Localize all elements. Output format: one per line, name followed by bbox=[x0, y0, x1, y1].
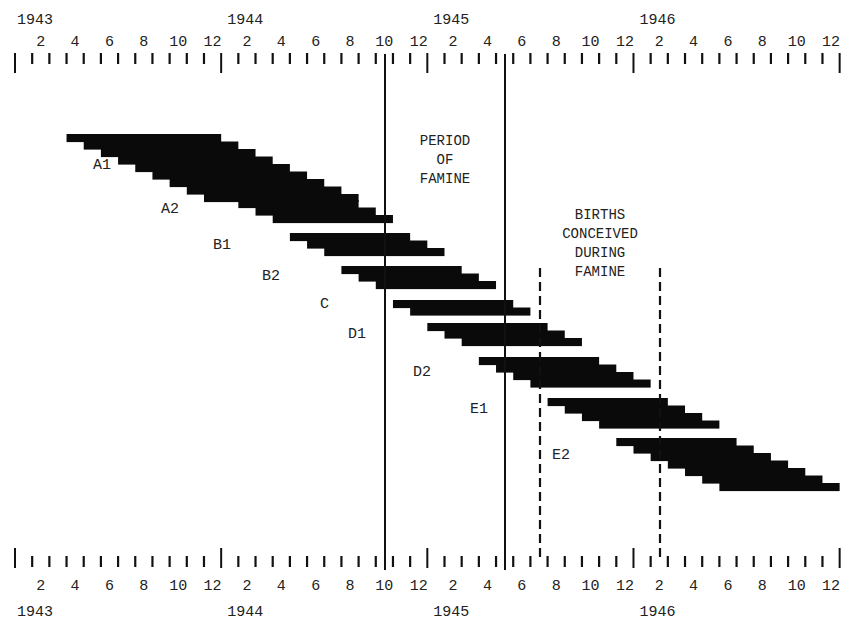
cohort-bar-b1 bbox=[290, 233, 445, 256]
year-label: 1943 bbox=[17, 12, 53, 29]
year-label: 1946 bbox=[639, 12, 675, 29]
year-label: 1943 bbox=[17, 604, 53, 621]
births-conceived-annotation: BIRTHS CONCEIVED DURING FAMINE bbox=[535, 206, 665, 282]
month-tick-label: 8 bbox=[552, 34, 561, 51]
year-label: 1944 bbox=[227, 12, 263, 29]
bar-step bbox=[341, 266, 461, 274]
bar-step bbox=[101, 149, 256, 157]
month-tick-label: 4 bbox=[71, 578, 80, 595]
month-tick-label: 2 bbox=[36, 34, 45, 51]
month-tick-label: 12 bbox=[822, 578, 840, 595]
bar-step bbox=[67, 134, 222, 142]
month-tick-label: 12 bbox=[616, 34, 634, 51]
month-tick-label: 2 bbox=[655, 578, 664, 595]
bar-step bbox=[668, 461, 788, 469]
cohort-label-a1: A1 bbox=[93, 158, 111, 173]
month-tick-label: 4 bbox=[277, 578, 286, 595]
bar-step bbox=[427, 323, 547, 331]
cohort-label-d1: D1 bbox=[348, 327, 366, 342]
bar-step bbox=[170, 179, 325, 187]
month-tick-label: 2 bbox=[449, 578, 458, 595]
month-tick-label: 12 bbox=[204, 34, 222, 51]
bar-step bbox=[84, 142, 239, 150]
cohort-bar-c bbox=[393, 300, 530, 316]
bar-step bbox=[187, 187, 342, 195]
bar-step bbox=[307, 241, 427, 249]
month-tick-label: 10 bbox=[169, 34, 187, 51]
cohort-bar-e1 bbox=[548, 398, 720, 429]
month-tick-label: 4 bbox=[483, 578, 492, 595]
bar-step bbox=[376, 281, 496, 289]
bar-step bbox=[256, 208, 376, 216]
bar-step bbox=[633, 446, 753, 454]
month-tick-label: 10 bbox=[582, 578, 600, 595]
cohort-label-d2: D2 bbox=[413, 365, 431, 380]
cohort-label-e2: E2 bbox=[552, 448, 570, 463]
bar-step bbox=[393, 300, 513, 308]
cohort-label-b2: B2 bbox=[262, 269, 280, 284]
month-tick-label: 8 bbox=[758, 578, 767, 595]
bar-step bbox=[616, 438, 736, 446]
month-tick-label: 10 bbox=[169, 578, 187, 595]
month-tick-label: 4 bbox=[71, 34, 80, 51]
bar-step bbox=[685, 468, 805, 476]
month-tick-label: 12 bbox=[410, 34, 428, 51]
bar-step bbox=[238, 200, 358, 208]
bar-step bbox=[273, 215, 393, 223]
bottom-time-axis: 2468101224681012246810122468101219431944… bbox=[15, 548, 840, 621]
bar-step bbox=[513, 372, 633, 380]
month-tick-label: 6 bbox=[311, 578, 320, 595]
month-tick-label: 10 bbox=[788, 578, 806, 595]
month-tick-label: 2 bbox=[242, 34, 251, 51]
bar-step bbox=[359, 274, 479, 282]
month-tick-label: 12 bbox=[204, 578, 222, 595]
month-tick-label: 12 bbox=[822, 34, 840, 51]
month-tick-label: 8 bbox=[139, 578, 148, 595]
bar-step bbox=[290, 233, 410, 241]
bar-step bbox=[651, 453, 771, 461]
bar-step bbox=[496, 365, 616, 373]
cohort-label-a2: A2 bbox=[161, 202, 179, 217]
bar-step bbox=[582, 413, 702, 421]
chart-canvas: 2468101224681012246810122468101219431944… bbox=[0, 0, 853, 632]
bar-step bbox=[152, 172, 307, 180]
top-time-axis: 2468101224681012246810122468101219431944… bbox=[15, 12, 840, 73]
month-tick-label: 10 bbox=[375, 34, 393, 51]
year-label: 1945 bbox=[433, 604, 469, 621]
month-tick-label: 8 bbox=[346, 34, 355, 51]
month-tick-label: 2 bbox=[655, 34, 664, 51]
cohort-bar-b2 bbox=[341, 266, 496, 289]
month-tick-label: 6 bbox=[311, 34, 320, 51]
month-tick-label: 8 bbox=[758, 34, 767, 51]
bar-step bbox=[719, 483, 839, 491]
bar-step bbox=[702, 476, 822, 484]
year-label: 1945 bbox=[433, 12, 469, 29]
cohort-bar-e2 bbox=[616, 438, 839, 491]
month-tick-label: 6 bbox=[723, 578, 732, 595]
month-tick-label: 6 bbox=[517, 34, 526, 51]
month-tick-label: 2 bbox=[36, 578, 45, 595]
month-tick-label: 10 bbox=[375, 578, 393, 595]
month-tick-label: 2 bbox=[242, 578, 251, 595]
cohort-label-e1: E1 bbox=[470, 402, 488, 417]
bar-step bbox=[548, 398, 668, 406]
month-tick-label: 6 bbox=[105, 578, 114, 595]
month-tick-label: 6 bbox=[105, 34, 114, 51]
month-tick-label: 4 bbox=[689, 578, 698, 595]
bar-step bbox=[410, 308, 530, 316]
month-tick-label: 10 bbox=[582, 34, 600, 51]
bar-step bbox=[462, 338, 582, 346]
cohort-label-c: C bbox=[320, 297, 329, 312]
period-of-famine-annotation: PERIOD OF FAMINE bbox=[395, 132, 495, 189]
cohort-label-b1: B1 bbox=[213, 238, 231, 253]
month-tick-label: 12 bbox=[616, 578, 634, 595]
month-tick-label: 6 bbox=[723, 34, 732, 51]
bar-step bbox=[118, 157, 273, 165]
month-tick-label: 12 bbox=[410, 578, 428, 595]
month-tick-label: 8 bbox=[139, 34, 148, 51]
month-tick-label: 8 bbox=[346, 578, 355, 595]
year-label: 1946 bbox=[639, 604, 675, 621]
month-tick-label: 4 bbox=[483, 34, 492, 51]
bar-step bbox=[135, 164, 290, 172]
month-tick-label: 4 bbox=[689, 34, 698, 51]
